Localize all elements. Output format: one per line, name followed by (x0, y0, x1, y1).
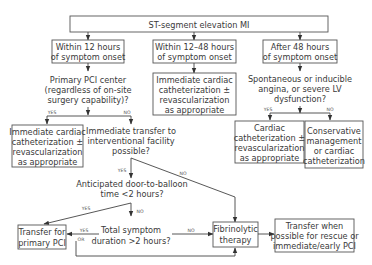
svg-text:of symptom onset: of symptom onset (263, 52, 338, 62)
label-yes-duration: YES (79, 228, 89, 233)
svg-text:Spontaneous or inducible: Spontaneous or inducible (248, 74, 352, 84)
svg-text:or cardiac: or cardiac (314, 146, 355, 156)
svg-text:Immediate cardiac: Immediate cardiac (156, 75, 232, 85)
svg-text:revascularization: revascularization (235, 143, 305, 153)
svg-text:as appropriate: as appropriate (240, 153, 300, 163)
svg-text:possible?: possible? (112, 146, 150, 156)
svg-text:duration >2 hours?: duration >2 hours? (91, 236, 170, 246)
svg-text:interventional facility: interventional facility (87, 136, 174, 146)
svg-text:catheterization ±: catheterization ± (159, 85, 230, 95)
svg-text:Anticipated door-to-balloon: Anticipated door-to-balloon (76, 179, 188, 189)
svg-text:catheterization ±: catheterization ± (234, 133, 305, 143)
node-immediate-cath-left: Immediate cardiac catheterization ± reva… (9, 125, 85, 167)
svg-text:possible for rescue or: possible for rescue or (270, 231, 359, 241)
label-yes-transfer: YES (117, 168, 127, 173)
svg-text:as appropriate: as appropriate (18, 157, 78, 167)
node-transfer-rescue: Transfer when possible for rescue or imm… (270, 219, 359, 252)
title-text: ST-segment elevation MI (149, 20, 250, 30)
label-no-duration: NO (187, 228, 194, 233)
node-immediate-transfer: Immediate transfer to interventional fac… (86, 126, 176, 156)
stemi-flowchart: ST-segment elevation MI Within 12 hours … (0, 0, 372, 265)
label-yes-balloon: YES (81, 206, 91, 211)
svg-text:management: management (307, 136, 363, 146)
svg-text:Within 12–48 hours: Within 12–48 hours (155, 42, 234, 52)
svg-text:Conservative: Conservative (307, 126, 361, 136)
svg-text:Transfer when: Transfer when (285, 221, 344, 231)
svg-text:Cardiac: Cardiac (254, 123, 285, 133)
svg-text:revascularization: revascularization (13, 147, 83, 157)
label-yes-pci: YES (47, 110, 57, 115)
node-immediate-cath-middle: Immediate cardiac catheterization ± reva… (153, 73, 236, 115)
svg-text:of symptom onset: of symptom onset (157, 52, 232, 62)
node-within-12-hours: Within 12 hours of symptom onset (51, 40, 126, 63)
svg-text:catheterization ±: catheterization ± (12, 137, 83, 147)
svg-text:as appropriate: as appropriate (165, 105, 225, 115)
svg-text:Total symptom: Total symptom (100, 225, 161, 235)
node-spontaneous-angina: Spontaneous or inducible angina, or seve… (248, 74, 352, 104)
label-no-transfer: NO (179, 171, 186, 176)
svg-text:surgery capability)?: surgery capability)? (47, 95, 128, 105)
node-within-12-48-hours: Within 12–48 hours of symptom onset (153, 40, 236, 63)
svg-text:Within 12 hours: Within 12 hours (56, 42, 121, 52)
node-door-to-balloon: Anticipated door-to-balloon time <2 hour… (76, 179, 188, 199)
svg-text:revascularization: revascularization (160, 95, 230, 105)
label-yes-angina: YES (263, 107, 273, 112)
svg-text:time <2 hours?: time <2 hours? (100, 189, 163, 199)
svg-text:After 48 hours: After 48 hours (271, 42, 329, 52)
svg-text:Primary PCI center: Primary PCI center (50, 75, 127, 85)
svg-text:catheterization: catheterization (303, 156, 365, 166)
label-or-duration: OR (78, 237, 86, 242)
node-conservative: Conservative management or cardiac cathe… (303, 121, 365, 168)
svg-text:immediate/early PCI: immediate/early PCI (273, 241, 356, 251)
svg-text:Immediate cardiac: Immediate cardiac (9, 127, 85, 137)
svg-text:therapy: therapy (220, 235, 252, 245)
node-primary-pci-center: Primary PCI center (regardless of on-sit… (45, 75, 132, 105)
node-fibrinolytic-therapy: Fibrinolytic therapy (213, 222, 258, 247)
label-no-pci: NO (123, 110, 130, 115)
svg-text:Fibrinolytic: Fibrinolytic (213, 224, 258, 234)
svg-text:angina, or severe LV: angina, or severe LV (258, 84, 342, 94)
label-no-balloon: NO (136, 209, 143, 214)
svg-text:Transfer for: Transfer for (18, 227, 66, 237)
svg-text:dysfunction?: dysfunction? (274, 94, 326, 104)
node-after-48-hours: After 48 hours of symptom onset (263, 40, 338, 63)
node-total-symptom-duration: Total symptom duration >2 hours? (91, 225, 170, 246)
node-transfer-primary-pci: Transfer for primary PCI (18, 225, 66, 249)
label-no-angina: NO (326, 107, 333, 112)
svg-text:(regardless of on-site: (regardless of on-site (45, 85, 132, 95)
svg-text:Immediate transfer to: Immediate transfer to (86, 126, 176, 136)
title-node: ST-segment elevation MI (70, 16, 328, 32)
svg-text:of symptom onset: of symptom onset (51, 52, 126, 62)
node-cardiac-cath-right: Cardiac catheterization ± revascularizat… (234, 121, 305, 163)
svg-text:primary PCI: primary PCI (18, 238, 66, 248)
